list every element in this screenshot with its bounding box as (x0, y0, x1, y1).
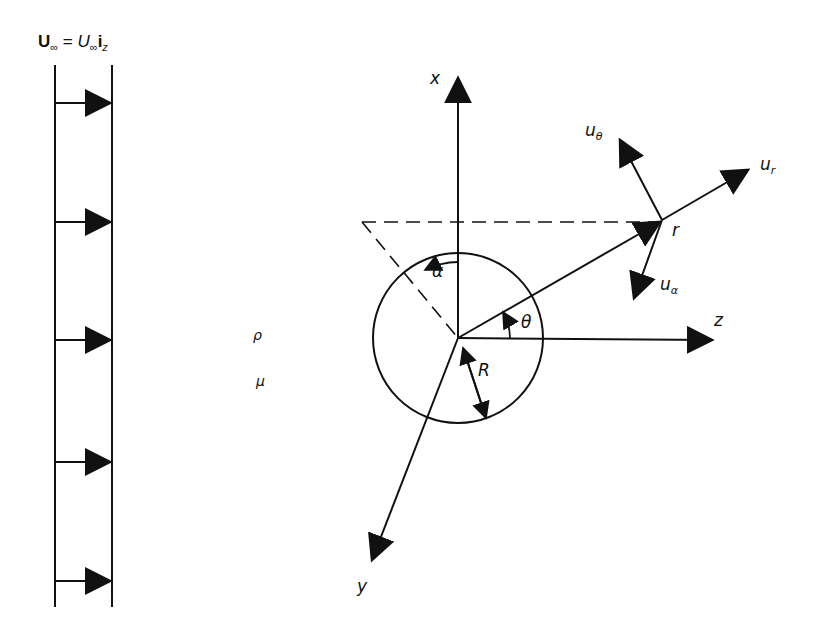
equals-sign: = (58, 32, 77, 51)
x-axis-label: x (430, 70, 440, 87)
construction-lines (362, 222, 662, 338)
diagram-canvas (0, 0, 817, 637)
coordinate-axes (372, 78, 712, 560)
free-stream-subscript: ∞ (50, 41, 58, 53)
z-axis-label: z (714, 312, 723, 329)
u-theta-label: uθ (585, 122, 603, 142)
radius-R-back (463, 348, 486, 418)
y-axis-label: y (357, 578, 367, 595)
theta-label: θ (521, 314, 531, 331)
u-theta-arrow (620, 140, 662, 220)
free-stream-profile (55, 65, 112, 607)
dashed-projection (362, 222, 458, 338)
speed-symbol: U (78, 32, 90, 51)
alpha-label: α (432, 263, 443, 280)
position-vector-r (458, 222, 660, 338)
theta-arc (503, 312, 510, 338)
density-label: ρ (253, 328, 262, 342)
y-axis (372, 338, 458, 560)
viscosity-label: μ (256, 374, 265, 388)
u-alpha-arrow (634, 220, 662, 298)
u-r-label: ur (760, 156, 775, 176)
free-stream-equation: U∞ = U∞iz (38, 32, 108, 53)
speed-subscript: ∞ (90, 41, 98, 53)
velocity-components (620, 140, 748, 298)
unit-vector-subscript: z (102, 41, 108, 53)
point-r-label: r (672, 222, 679, 239)
z-axis (458, 338, 712, 340)
u-r-arrow (662, 170, 748, 220)
radius-label: R (478, 362, 490, 379)
u-alpha-label: uα (660, 276, 678, 296)
free-stream-symbol: U (38, 32, 50, 51)
